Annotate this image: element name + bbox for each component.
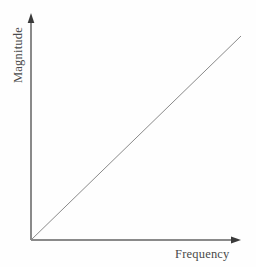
x-axis-label: Frequency	[175, 247, 230, 262]
x-axis-arrowhead-icon	[231, 237, 241, 244]
data-line-magnitude	[31, 36, 241, 240]
chart-canvas: Frequency Magnitude	[0, 0, 256, 267]
y-axis-arrowhead-icon	[28, 13, 35, 23]
plot-area	[0, 0, 256, 267]
y-axis-label: Magnitude	[11, 27, 26, 83]
